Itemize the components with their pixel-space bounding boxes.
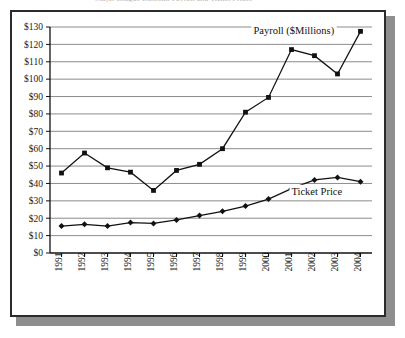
data-point-marker bbox=[358, 29, 363, 34]
y-tick-label: $70 bbox=[29, 127, 44, 137]
line-chart: $0$10$20$30$40$50$60$70$80$90$100$110$12… bbox=[12, 12, 384, 315]
x-tick-label: 1997 bbox=[192, 252, 202, 271]
x-tick-label: 2004 bbox=[353, 252, 363, 271]
series-annotation-2: Ticket Price bbox=[291, 186, 342, 197]
y-tick-label: $100 bbox=[24, 74, 43, 84]
y-tick-label: $30 bbox=[29, 196, 44, 206]
series-line bbox=[62, 177, 361, 226]
y-tick-label: $10 bbox=[29, 231, 44, 241]
data-point-marker bbox=[174, 168, 179, 173]
y-tick-label: $40 bbox=[29, 179, 44, 189]
x-tick-label: 2001 bbox=[284, 252, 294, 271]
data-point-marker bbox=[197, 213, 203, 219]
x-tick-label: 1999 bbox=[238, 252, 248, 271]
data-point-marker bbox=[220, 208, 226, 214]
data-point-marker bbox=[82, 151, 87, 156]
series-annotation-1: Payroll ($Millions) bbox=[253, 25, 334, 37]
y-tick-label: $110 bbox=[24, 57, 43, 67]
x-tick-label: 1996 bbox=[169, 252, 179, 271]
data-point-marker bbox=[59, 223, 65, 229]
x-tick-label: 2002 bbox=[307, 252, 317, 271]
cut-off-title-sliver: Major League Baseball Payroll and Ticket… bbox=[95, 0, 295, 2]
chart-plot-area: $0$10$20$30$40$50$60$70$80$90$100$110$12… bbox=[12, 12, 384, 315]
x-tick-label: 1992 bbox=[77, 252, 87, 271]
x-tick-label: 1991 bbox=[54, 252, 64, 271]
y-tick-label: $80 bbox=[29, 109, 44, 119]
data-point-marker bbox=[82, 221, 88, 227]
data-series-group bbox=[59, 29, 364, 229]
y-tick-label: $60 bbox=[29, 144, 44, 154]
series-annotations-group: Payroll ($Millions)Ticket Price bbox=[251, 24, 344, 198]
y-tick-label: $20 bbox=[29, 214, 44, 224]
data-point-marker bbox=[151, 220, 157, 226]
y-tick-label: $130 bbox=[24, 22, 43, 32]
data-point-marker bbox=[105, 223, 111, 229]
series-2 bbox=[59, 174, 364, 229]
data-point-marker bbox=[335, 72, 340, 77]
y-tick-label: $0 bbox=[34, 248, 44, 258]
x-tick-label: 1994 bbox=[123, 252, 133, 271]
data-point-marker bbox=[335, 174, 341, 180]
data-point-marker bbox=[243, 110, 248, 115]
data-point-marker bbox=[105, 165, 110, 170]
data-point-marker bbox=[243, 203, 249, 209]
x-tick-label: 2000 bbox=[261, 252, 271, 271]
series-1 bbox=[59, 29, 363, 193]
data-point-marker bbox=[312, 53, 317, 58]
gridlines-group bbox=[50, 27, 372, 236]
chart-figure-frame: $0$10$20$30$40$50$60$70$80$90$100$110$12… bbox=[10, 10, 386, 317]
y-tick-label: $120 bbox=[24, 40, 43, 50]
x-tick-label: 2003 bbox=[330, 252, 340, 271]
data-point-marker bbox=[312, 177, 318, 183]
x-tick-label: 1998 bbox=[215, 252, 225, 271]
data-point-marker bbox=[128, 170, 133, 175]
data-point-marker bbox=[59, 171, 64, 176]
data-point-marker bbox=[220, 146, 225, 151]
data-point-marker bbox=[151, 188, 156, 193]
data-point-marker bbox=[266, 95, 271, 100]
x-axis-tick-labels: 1991199219931994199519961997199819992000… bbox=[54, 252, 363, 271]
y-axis-tick-labels: $0$10$20$30$40$50$60$70$80$90$100$110$12… bbox=[24, 22, 43, 258]
data-point-marker bbox=[289, 47, 294, 52]
data-point-marker bbox=[197, 162, 202, 167]
x-tick-label: 1993 bbox=[100, 252, 110, 271]
x-tick-label: 1995 bbox=[146, 252, 156, 271]
data-point-marker bbox=[128, 220, 134, 226]
y-tick-label: $50 bbox=[29, 161, 44, 171]
y-tick-label: $90 bbox=[29, 92, 44, 102]
